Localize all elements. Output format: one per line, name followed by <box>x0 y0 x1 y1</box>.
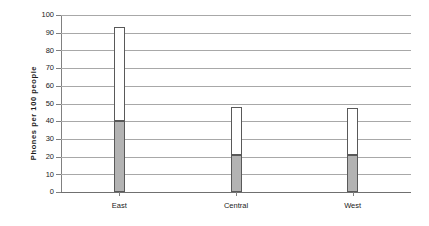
y-tick-label-wrap: 20 <box>30 152 54 162</box>
y-tick-label: 100 <box>32 11 54 19</box>
bar-segment-upper <box>231 107 242 155</box>
bar-segment-lower <box>114 121 125 192</box>
x-tick-mark <box>353 192 354 196</box>
plot-area <box>61 15 411 192</box>
y-tick-label: 70 <box>32 64 54 72</box>
y-tick-label: 80 <box>32 47 54 55</box>
x-tick-mark <box>236 192 237 196</box>
y-tick-label-wrap: 10 <box>30 169 54 179</box>
y-tick-label-wrap: 40 <box>30 116 54 126</box>
y-tick-label: 0 <box>32 188 54 196</box>
y-tick-label-wrap: 50 <box>30 99 54 109</box>
y-tick-label-wrap: 80 <box>30 45 54 55</box>
bar-segment-lower <box>347 155 358 192</box>
y-tick-label: 90 <box>32 29 54 37</box>
bar-segment-upper <box>347 108 358 155</box>
y-tick-label-wrap: 60 <box>30 81 54 91</box>
bar-segment-upper <box>114 27 125 121</box>
y-tick-label-wrap: 90 <box>30 28 54 38</box>
y-tick-label-wrap: 100 <box>30 10 54 20</box>
bar-segment-lower <box>231 155 242 192</box>
bar-chart: Phones per 100 people 100908070605040302… <box>0 0 429 226</box>
bar-group <box>231 15 242 192</box>
y-tick-label-wrap: 70 <box>30 63 54 73</box>
y-tick-label: 30 <box>32 135 54 143</box>
y-tick-label-wrap: 30 <box>30 134 54 144</box>
bar-group <box>347 15 358 192</box>
x-category-label: East <box>79 202 159 210</box>
y-tick-label-wrap: 0 <box>30 187 54 197</box>
y-tick-label: 60 <box>32 82 54 90</box>
x-category-label: Central <box>196 202 276 210</box>
y-tick-label: 40 <box>32 117 54 125</box>
y-tick-label: 20 <box>32 153 54 161</box>
y-tick-label: 10 <box>32 171 54 179</box>
x-tick-mark <box>119 192 120 196</box>
x-category-label: West <box>313 202 393 210</box>
y-tick-label: 50 <box>32 100 54 108</box>
bar-group <box>114 15 125 192</box>
